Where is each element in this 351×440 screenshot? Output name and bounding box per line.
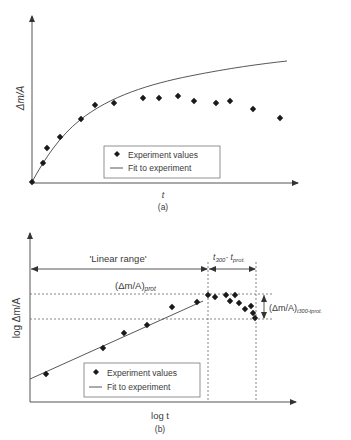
data-point: [156, 95, 162, 101]
data-point: [205, 292, 211, 298]
chart-b-legend-markers: Experiment values: [107, 368, 177, 378]
chart-a-x-label: t: [162, 190, 165, 200]
data-point: [57, 134, 63, 140]
chart-b-legend: Experiment values Fit to experiment: [84, 363, 200, 397]
data-point: [227, 298, 233, 304]
data-point: [44, 145, 50, 151]
data-point: [213, 100, 219, 106]
data-point: [43, 371, 49, 377]
data-point: [248, 303, 254, 309]
data-point: [100, 345, 106, 351]
chart-b-caption: (b): [155, 424, 166, 434]
data-point: [236, 300, 242, 306]
chart-b-y-label: log Δm/A: [11, 297, 22, 338]
data-point: [29, 179, 35, 185]
data-point: [242, 306, 248, 312]
chart-a-legend-line: Fit to experiment: [128, 163, 192, 173]
chart-b-x-label: log t: [151, 410, 169, 421]
chart-b-legend-line: Fit to experiment: [107, 382, 171, 392]
data-point: [223, 292, 229, 298]
data-point: [277, 115, 283, 121]
chart-a-legend-markers: Experiment values: [128, 150, 198, 160]
linear-range-label: 'Linear range': [90, 253, 147, 264]
delta-level-label: (Δm/A)t300-tprot.: [269, 303, 322, 314]
data-point: [92, 102, 98, 108]
prot-level-label: (Δm/A)prot: [115, 280, 157, 293]
data-point: [40, 160, 46, 166]
data-point: [175, 93, 181, 99]
chart-a: Δm/A Experiment values Fit to experiment…: [15, 16, 298, 212]
data-point: [191, 98, 197, 104]
data-point: [169, 304, 175, 310]
data-point: [227, 98, 233, 104]
data-point: [212, 294, 218, 300]
chart-a-y-label: Δm/A: [15, 85, 26, 111]
data-point: [232, 292, 238, 298]
chart-a-caption: (a): [158, 202, 169, 212]
time-interval-label: t300- tprot.: [213, 252, 245, 263]
data-point: [250, 106, 256, 112]
chart-a-legend: Experiment values Fit to experiment: [104, 146, 220, 178]
data-point: [140, 95, 146, 101]
figure: Δm/A Experiment values Fit to experiment…: [0, 0, 351, 440]
chart-b: log Δm/A 'Linear range' t300- tprot. (Δm…: [11, 233, 322, 434]
